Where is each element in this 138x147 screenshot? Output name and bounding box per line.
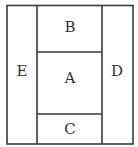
region-label-b: B — [64, 18, 75, 36]
region-label-d: D — [111, 62, 123, 80]
region-diagram: B A C E D — [0, 0, 138, 147]
region-label-a: A — [64, 69, 76, 87]
region-label-c: C — [64, 120, 75, 138]
region-label-e: E — [17, 62, 28, 80]
